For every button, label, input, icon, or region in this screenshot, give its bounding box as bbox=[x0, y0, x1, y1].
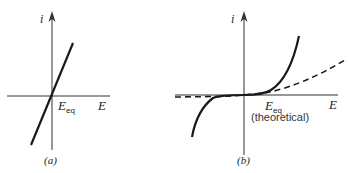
x-axis-label: E bbox=[98, 99, 106, 112]
eeq-main: E bbox=[58, 98, 66, 113]
theoretical-note: (theoretical) bbox=[251, 112, 309, 123]
y-axis-label: i bbox=[40, 13, 43, 25]
panel-b: i E Eeq (theoretical) (b) bbox=[175, 0, 349, 173]
caption-a: (a) bbox=[44, 155, 57, 166]
eeq-label: Eeq bbox=[58, 99, 75, 115]
y-axis-label: i bbox=[231, 13, 234, 25]
panel-a-plot bbox=[0, 0, 175, 173]
caption-b: (b) bbox=[237, 155, 250, 166]
panel-b-plot bbox=[175, 0, 349, 173]
panel-a: i E Eeq (a) bbox=[0, 0, 175, 173]
dashed-curve bbox=[175, 60, 345, 97]
x-axis-label: E bbox=[329, 98, 337, 111]
eeq-sub: eq bbox=[66, 106, 75, 115]
